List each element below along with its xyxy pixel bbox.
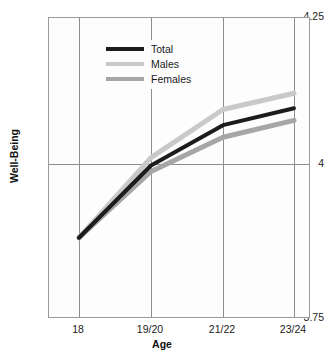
x-axis-title: Age — [0, 338, 324, 350]
legend-item-females: Females — [106, 73, 191, 85]
legend-swatch-females — [106, 77, 144, 81]
x-axis-tick-23-24: 23/24 — [263, 323, 323, 335]
legend-label-males: Males — [151, 59, 179, 70]
x-axis-tick-18: 18 — [48, 323, 108, 335]
well-being-line-chart: 4.25 4 3.75 Well-Being Total Males — [0, 0, 324, 356]
legend-swatch-total — [106, 47, 144, 51]
legend-item-males: Males — [106, 58, 191, 70]
plot-area: Total Males Females — [48, 17, 310, 318]
legend: Total Males Females — [102, 40, 197, 89]
legend-item-total: Total — [106, 43, 191, 55]
y-axis-title: Well-Being — [8, 106, 20, 206]
legend-label-total: Total — [151, 44, 173, 55]
legend-label-females: Females — [151, 74, 191, 85]
x-axis-tick-19-20: 19/20 — [120, 323, 180, 335]
line-females — [79, 120, 294, 237]
legend-swatch-males — [106, 62, 144, 66]
x-axis-tick-21-22: 21/22 — [192, 323, 252, 335]
